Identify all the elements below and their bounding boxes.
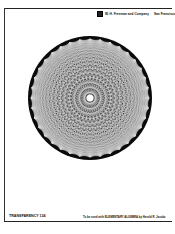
faint-bleed-through-text: · · · · · · · · · · [58,27,118,31]
publisher-line: W. H. Freeman and Company San Francisco [97,11,175,17]
frame-left-border [4,8,5,222]
mystic-rose-figure [28,36,152,160]
publisher-city: San Francisco [154,12,175,16]
publisher-logo-icon [97,11,103,17]
transparency-label: TRANSPARENCY 134 [9,214,46,218]
publisher-name: W. H. Freeman and Company [105,12,149,16]
frame-top-border [4,8,172,9]
book-credit: To be used with ELEMENTARY ALGEBRA by Ha… [83,215,166,219]
center-hole [87,95,94,102]
frame-bottom-border [4,221,172,222]
